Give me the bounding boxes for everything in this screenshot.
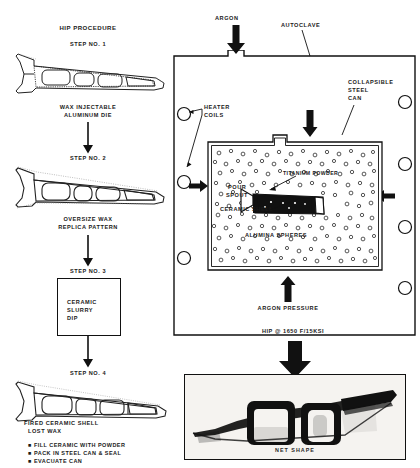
step-2-label: STEP NO. 2 (70, 155, 106, 162)
ceramic-shell-label: CERAMIC SHELL (220, 206, 273, 213)
step-4-bullet-text: PACK IN STEEL CAN & SEAL (34, 450, 121, 456)
heater-coil-circle (178, 252, 191, 265)
step-2-caption-line-1: OVERSIZE WAX (63, 216, 112, 223)
alumina-spheres-label: ALUMINA SPHERES (245, 232, 307, 239)
step-1-caption-line-2: ALUMINUM DIE (64, 112, 112, 119)
step-1-caption-line-1: WAX INJECTABLE (60, 104, 117, 111)
pour-spout-label-line-2: SPOUT (226, 192, 248, 199)
argon-pressure-label: ARGON PRESSURE (258, 305, 319, 312)
net-shape-photograph: NET SHAPE (184, 374, 406, 460)
heater-coil-circle (399, 221, 412, 234)
ceramic-shell-leader-line (268, 196, 308, 212)
step-4-bullet-item: ■EVACUATE CAN (28, 457, 125, 465)
figure-title: HIP PROCEDURE (59, 24, 116, 31)
argon-pressure-arrow-icon (280, 276, 296, 302)
net-shape-caption: NET SHAPE (275, 447, 315, 453)
flow-arrow-1-icon (80, 122, 96, 154)
step-2-wax-pattern-icon (8, 164, 173, 214)
heater-coils-left-group (174, 104, 194, 304)
collapsible-can-label-line-3: CAN (348, 95, 362, 102)
step-4-ceramic-shell-icon (8, 378, 173, 426)
step-4-bullet-item: ■FILL CERAMIC WITH POWDER (28, 441, 125, 449)
step-4-label: STEP NO. 4 (70, 370, 106, 377)
step-3-box-line-1: CERAMIC (67, 299, 97, 306)
argon-inlet-label: ARGON (215, 15, 239, 22)
collapsible-can-label-line-1: COLLAPSIBLE (348, 79, 394, 86)
step-4-bullet-item: ■PACK IN STEEL CAN & SEAL (28, 449, 125, 457)
flow-arrow-3-icon (80, 336, 96, 368)
collapsible-can-label-line-2: STEEL (348, 87, 369, 94)
step-4-caption-line-2: LOST WAX (28, 428, 62, 435)
hip-procedure-figure: HIP PROCEDURE STEP NO. 1 WAX INJECTABLE … (0, 0, 420, 468)
step-4-caption-line-1: FIRED CERAMIC SHELL (24, 420, 99, 427)
step-4-bullet-text: EVACUATE CAN (34, 458, 82, 464)
titanium-powder-leader-line (265, 174, 299, 192)
step-4-bullet-list: ■FILL CERAMIC WITH POWDER ■PACK IN STEEL… (28, 441, 125, 465)
step-2-caption-line-2: REPLICA PATTERN (58, 224, 118, 231)
hip-conditions-label: HIP @ 1650 F/15KSI (262, 328, 324, 335)
heater-coil-circle (178, 108, 191, 121)
heater-coil-circle (399, 282, 412, 295)
pour-spout-label-line-1: POUR (228, 184, 246, 191)
step-1-label: STEP NO. 1 (70, 41, 106, 48)
step-4-bullet-text: FILL CERAMIC WITH POWDER (34, 442, 125, 448)
heater-coils-right-group (395, 92, 415, 302)
heater-coil-circle (399, 158, 412, 171)
step-3-label: STEP NO. 3 (70, 268, 106, 275)
step-1-airfoil-die-icon (8, 50, 173, 100)
flow-arrow-2-icon (80, 235, 96, 267)
heater-coil-circle (399, 96, 412, 109)
step-3-box-line-3: DIP (67, 315, 78, 322)
step-3-box-line-2: SLURRY (67, 307, 93, 314)
